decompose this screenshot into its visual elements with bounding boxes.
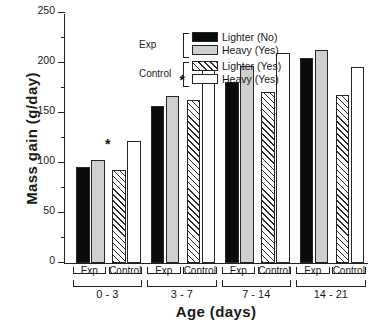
y-tick-0: 0 <box>58 262 65 263</box>
x-category-label: 0 - 3 <box>73 289 143 300</box>
legend-item: Heavy (Yes) <box>192 74 279 85</box>
legend-label: Heavy (Yes) <box>222 45 279 56</box>
legend-label: Lighter (Yes) <box>222 61 281 72</box>
legend-swatch-gray <box>192 45 218 55</box>
bar <box>91 160 105 263</box>
y-tick-label: 250 <box>37 5 55 16</box>
subgroup-label-exp: Exp <box>296 266 330 276</box>
bar <box>187 100 201 263</box>
bar <box>336 95 350 263</box>
y-tick-label: 200 <box>37 55 55 66</box>
y-tick-150: 150 <box>58 112 65 113</box>
y-tick-50: 50 <box>58 212 65 213</box>
bar <box>261 92 275 263</box>
y-tick-label: 150 <box>37 105 55 116</box>
bar <box>202 63 216 263</box>
bar <box>127 141 141 263</box>
y-axis-title: Mass gain (g/day) <box>23 39 40 239</box>
bar <box>240 66 254 263</box>
y-tick-100: 100 <box>58 162 65 163</box>
bar-chart-figure: Mass gain (g/day) 050100150200250 ** Exp… <box>0 0 381 327</box>
legend-group-name-exp: Exp <box>139 40 156 50</box>
significance-asterisk: * <box>105 137 110 151</box>
subgroup-label-control: Control <box>258 266 292 276</box>
subgroup-label-control: Control <box>109 266 143 276</box>
bar <box>112 170 126 263</box>
bar <box>225 82 239 263</box>
y-tick-label: 50 <box>43 205 55 216</box>
bar <box>76 167 90 263</box>
x-category-label: 3 - 7 <box>147 289 217 300</box>
legend-group-bracket <box>183 62 189 87</box>
x-axis-title: Age (days) <box>64 303 368 320</box>
y-tick-250: 250 <box>58 12 65 13</box>
bar <box>351 67 365 263</box>
legend-item: Heavy (Yes) <box>192 45 279 56</box>
legend-group-bracket <box>183 33 189 58</box>
legend-swatch-white <box>192 74 218 84</box>
chart-legend: ExpLighter (No)Heavy (Yes)ControlLighter… <box>139 32 324 90</box>
y-tick-200: 200 <box>58 62 65 63</box>
group-bracket <box>222 280 292 287</box>
subgroup-label-exp: Exp <box>222 266 256 276</box>
legend-label: Lighter (No) <box>222 32 277 43</box>
x-category-label: 7 - 14 <box>222 289 292 300</box>
bar <box>151 106 165 263</box>
legend-swatch-black <box>192 32 218 42</box>
legend-label: Heavy (Yes) <box>222 74 279 85</box>
plot-area: 050100150200250 ** ExpLighter (No)Heavy … <box>64 14 368 264</box>
legend-item: Lighter (No) <box>192 32 277 43</box>
group-bracket <box>296 280 366 287</box>
legend-swatch-hatch <box>192 61 218 71</box>
legend-item: Lighter (Yes) <box>192 61 281 72</box>
subgroup-label-control: Control <box>183 266 217 276</box>
y-tick-label: 0 <box>49 255 55 266</box>
group-bracket <box>147 280 217 287</box>
subgroup-label-exp: Exp <box>147 266 181 276</box>
x-category-label: 14 - 21 <box>296 289 366 300</box>
subgroup-label-control: Control <box>332 266 366 276</box>
bar <box>166 96 180 263</box>
subgroup-label-exp: Exp <box>73 266 107 276</box>
group-bracket <box>73 280 143 287</box>
legend-group-name-control: Control <box>139 69 171 79</box>
y-tick-label: 100 <box>37 155 55 166</box>
